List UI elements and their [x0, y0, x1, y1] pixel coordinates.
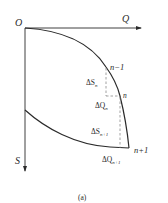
delta-q-n-sub: n: [105, 106, 108, 111]
origin-label: O: [15, 17, 22, 28]
delta-q-n-base: ΔQ: [95, 101, 106, 110]
point-label-n-minus-1: n−1: [110, 62, 124, 72]
delta-s-n-base: ΔS: [86, 78, 95, 87]
delta-s-n1-sub: n+1: [100, 132, 108, 137]
delta-q-n-label: ΔQn: [95, 101, 108, 111]
lower-curve: [25, 110, 129, 148]
delta-s-n-label: ΔSn: [86, 78, 98, 88]
delta-q-n1-sub: n+1: [112, 160, 120, 165]
point-label-n: n: [123, 91, 127, 100]
delta-s-n-sub: n: [95, 83, 98, 88]
delta-s-n1-base: ΔS: [91, 127, 100, 136]
q-axis-label: Q: [122, 13, 130, 24]
point-label-n-plus-1: n+1: [134, 145, 148, 155]
delta-s-n1-label: ΔSn+1: [91, 127, 108, 137]
delta-q-n1-label: ΔQn+1: [102, 155, 121, 165]
upper-curve: [25, 28, 129, 148]
figure-caption: (a): [78, 193, 87, 202]
s-axis-label: S: [15, 155, 20, 166]
delta-q-n1-base: ΔQ: [102, 155, 113, 164]
q-s-diagram: O Q S n−1 n n+1 ΔSn ΔQn ΔSn+1 ΔQn+1 (a): [0, 0, 168, 203]
